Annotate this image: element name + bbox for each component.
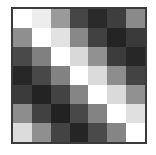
heatmap-cell: [70, 123, 89, 142]
heatmap-cell: [13, 66, 32, 85]
heatmap-cell: [51, 85, 70, 104]
heatmap-cell: [126, 123, 145, 142]
heatmap-cell: [70, 104, 89, 123]
heatmap-cell: [107, 47, 126, 66]
heatmap-grid: [13, 9, 145, 142]
heatmap-cell: [51, 28, 70, 47]
heatmap-cell: [70, 66, 89, 85]
heatmap-cell: [32, 85, 51, 104]
heatmap-cell: [107, 123, 126, 142]
heatmap-cell: [126, 47, 145, 66]
heatmap-cell: [13, 9, 32, 28]
heatmap-cell: [51, 47, 70, 66]
heatmap-cell: [51, 104, 70, 123]
heatmap-cell: [107, 85, 126, 104]
heatmap-cell: [126, 66, 145, 85]
heatmap-cell: [13, 123, 32, 142]
heatmap-cell: [32, 47, 51, 66]
heatmap-cell: [88, 123, 107, 142]
heatmap-cell: [107, 104, 126, 123]
heatmap-cell: [32, 66, 51, 85]
heatmap-cell: [126, 9, 145, 28]
heatmap-cell: [51, 66, 70, 85]
heatmap-cell: [13, 85, 32, 104]
heatmap-cell: [13, 28, 32, 47]
heatmap-cell: [32, 123, 51, 142]
heatmap-cell: [32, 104, 51, 123]
heatmap-cell: [126, 85, 145, 104]
heatmap-cell: [88, 47, 107, 66]
heatmap-cell: [126, 104, 145, 123]
heatmap-plot-area: [11, 7, 147, 144]
heatmap-cell: [88, 85, 107, 104]
heatmap-cell: [13, 47, 32, 66]
heatmap-figure: [0, 0, 156, 155]
heatmap-cell: [70, 9, 89, 28]
heatmap-cell: [51, 9, 70, 28]
heatmap-cell: [32, 28, 51, 47]
heatmap-cell: [88, 66, 107, 85]
heatmap-cell: [51, 123, 70, 142]
heatmap-cell: [70, 47, 89, 66]
heatmap-cell: [70, 85, 89, 104]
heatmap-cell: [107, 66, 126, 85]
heatmap-cell: [13, 104, 32, 123]
heatmap-cell: [107, 28, 126, 47]
heatmap-cell: [70, 28, 89, 47]
heatmap-cell: [88, 28, 107, 47]
heatmap-cell: [32, 9, 51, 28]
heatmap-cell: [88, 9, 107, 28]
heatmap-cell: [107, 9, 126, 28]
heatmap-cell: [126, 28, 145, 47]
heatmap-cell: [88, 104, 107, 123]
